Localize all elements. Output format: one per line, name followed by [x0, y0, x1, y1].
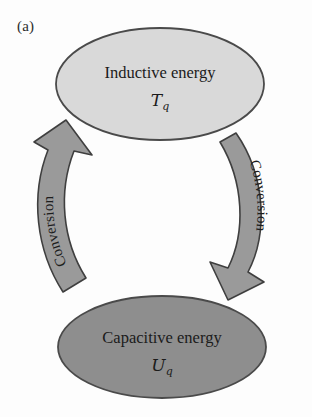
right-conversion-arrow: Conversion	[210, 133, 271, 300]
capacitive-symbol-subscript: q	[166, 365, 173, 378]
capacitive-energy-node: Capacitive energy Uq	[58, 296, 266, 398]
inductive-energy-node: Inductive energy Tq	[56, 28, 264, 140]
inductive-symbol-subscript: q	[162, 100, 169, 113]
energy-conversion-diagram: Conversion Conversion Inductive energy T…	[0, 0, 312, 417]
figure-panel: (a) Conversion Conver	[0, 0, 312, 417]
left-conversion-arrow: Conversion	[34, 120, 92, 292]
inductive-energy-title: Inductive energy	[104, 63, 216, 82]
capacitive-energy-ellipse	[58, 296, 266, 398]
inductive-energy-ellipse	[56, 28, 264, 140]
capacitive-energy-title: Capacitive energy	[102, 328, 222, 347]
capacitive-symbol-glyph: U	[151, 355, 166, 375]
